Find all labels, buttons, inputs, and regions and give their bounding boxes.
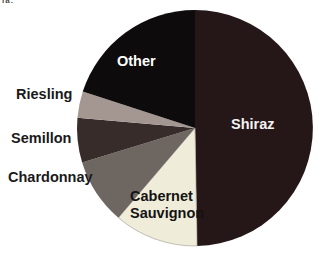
slice-label-chardonnay: Chardonnay	[8, 169, 93, 186]
slice-label-other: Other	[117, 53, 156, 70]
slice-label-riesling: Riesling	[16, 86, 72, 103]
slice-label-cabernet-sauvignon: Cabernet Sauvignon	[130, 188, 212, 222]
slice-label-shiraz: Shiraz	[231, 116, 275, 133]
pie-chart-figure: ia. Riesling Semillon Chardonnay Other S…	[0, 0, 322, 256]
slice-label-semillon: Semillon	[11, 130, 71, 147]
